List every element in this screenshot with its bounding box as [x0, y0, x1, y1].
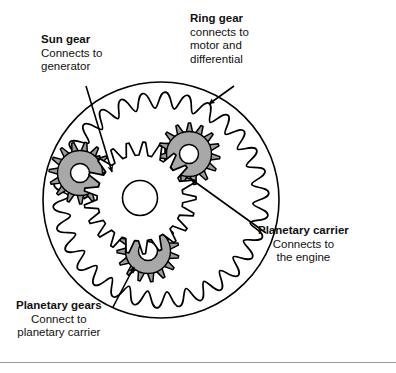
- callout-sun-gear-line1: Connects to: [41, 47, 102, 61]
- callout-planetary-gears-line1: Connect to: [16, 313, 102, 327]
- callout-planetary-gears: Planetary gears Connect to planetary car…: [16, 299, 102, 340]
- bottom-divider: [0, 362, 396, 363]
- callout-sun-gear: Sun gear Connects to generator: [41, 33, 102, 74]
- planet-gear-top-right-hub: [180, 145, 199, 164]
- callout-ring-gear-line3: differential: [190, 53, 249, 67]
- callout-ring-gear-title: Ring gear: [190, 12, 249, 26]
- callout-planetary-gears-line2: planetary carrier: [16, 326, 102, 340]
- sun-gear-hub: [123, 181, 158, 216]
- callout-planetary-gears-title: Planetary gears: [16, 299, 102, 313]
- callout-ring-gear-line1: connects to: [190, 26, 249, 40]
- callout-planetary-carrier-line1: Connects to: [258, 238, 349, 252]
- callout-sun-gear-line2: generator: [41, 60, 102, 74]
- callout-planetary-carrier: Planetary carrier Connects to the engine: [258, 224, 349, 265]
- callout-planetary-carrier-title: Planetary carrier: [258, 224, 349, 238]
- callout-ring-gear-line2: motor and: [190, 39, 249, 53]
- callout-sun-gear-title: Sun gear: [41, 33, 102, 47]
- callout-planetary-carrier-line2: the engine: [258, 251, 349, 265]
- planet-gear-left-hub: [71, 164, 90, 183]
- callout-ring-gear: Ring gear connects to motor and differen…: [190, 12, 249, 66]
